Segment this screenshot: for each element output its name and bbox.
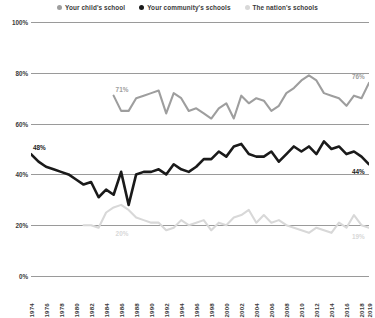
x-axis-tick-label: 1976	[43, 303, 50, 318]
x-axis-tick-label: 2008	[283, 303, 290, 318]
x-axis-tick-label: 1994	[178, 303, 185, 318]
x-axis-tick-label: 2010	[298, 303, 305, 318]
chart-legend: Your child's schoolYour community's scho…	[0, 4, 375, 11]
legend-item[interactable]: Your community's schools	[139, 4, 230, 11]
y-axis-tick-label: 20%	[15, 222, 28, 229]
data-point-label: 19%	[352, 233, 365, 240]
x-axis-tick-label: 2012	[313, 303, 320, 318]
y-axis-tick-label: 0%	[19, 273, 28, 280]
legend-marker-dot-icon	[245, 5, 250, 10]
x-axis-tick-label: 1974	[28, 303, 35, 318]
y-axis-tick-label: 60%	[15, 120, 28, 127]
y-axis-tick-label: 40%	[15, 171, 28, 178]
legend-marker-dot-icon	[57, 5, 62, 10]
x-axis: 1974197619781980198219841986198819901992…	[31, 277, 369, 318]
data-point-label: 20%	[116, 230, 129, 237]
x-axis-tick-label: 2004	[253, 303, 260, 318]
x-axis-tick-label: 2000	[223, 303, 230, 318]
x-axis-tick-label: 1990	[148, 303, 155, 318]
x-axis-tick-label: 2002	[238, 303, 245, 318]
x-axis-tick-label: 1996	[193, 303, 200, 318]
data-point-label: 76%	[352, 73, 365, 80]
x-axis-tick-label: 1992	[163, 303, 170, 318]
data-point-label: 44%	[352, 168, 365, 175]
x-axis-tick-label: 1998	[208, 303, 215, 318]
chart-container: Your child's schoolYour community's scho…	[0, 0, 375, 318]
x-axis-tick-label: 1980	[73, 303, 80, 318]
x-axis-tick-label: 2016	[343, 303, 350, 318]
x-axis-tick-label: 1978	[58, 303, 65, 318]
x-axis-tick-label: 2006	[268, 303, 275, 318]
y-axis-tick-label: 80%	[15, 69, 28, 76]
x-axis-tick-label: 1982	[88, 303, 95, 318]
data-point-label: 71%	[116, 86, 129, 93]
series-lines	[31, 22, 369, 276]
y-axis-tick-label: 100%	[12, 19, 28, 26]
legend-item[interactable]: Your child's school	[57, 4, 125, 11]
plot-area: 0%20%40%60%80%100% 48%44%71%76%20%19%	[31, 22, 369, 276]
x-axis-tick-label: 2019	[366, 303, 373, 318]
legend-item-label: Your child's school	[65, 4, 125, 11]
legend-marker-dot-icon	[139, 5, 144, 10]
legend-item-label: Your community's schools	[147, 4, 230, 11]
legend-item[interactable]: The nation's schools	[245, 4, 318, 11]
series-line	[31, 141, 369, 205]
legend-item-label: The nation's schools	[253, 4, 318, 11]
x-axis-tick-label: 2014	[328, 303, 335, 318]
x-axis-tick-label: 1988	[133, 303, 140, 318]
series-line	[84, 205, 369, 233]
x-axis-tick-label: 1984	[103, 303, 110, 318]
x-axis-tick-label: 1986	[118, 303, 125, 318]
series-line	[114, 75, 369, 118]
data-point-label: 48%	[33, 144, 46, 151]
x-axis-tick-label: 2018	[358, 303, 365, 318]
